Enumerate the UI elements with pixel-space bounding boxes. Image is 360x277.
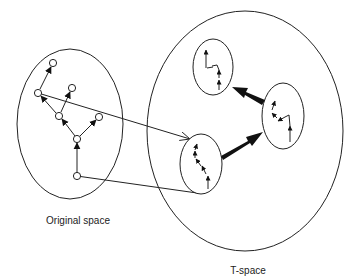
tree-nodes: [34, 59, 102, 179]
thick-arrow-icon: [232, 87, 265, 105]
edge-junction-middle: [62, 119, 75, 136]
original-space-ellipse: [17, 49, 123, 199]
node-bottom: [73, 172, 80, 179]
node-left: [34, 89, 41, 96]
cluster-bottom-left-ellipse: [180, 134, 222, 194]
cluster-top: [193, 39, 233, 95]
cluster-right-ellipse: [262, 83, 304, 149]
node-junction: [73, 135, 80, 142]
t-space-diagram: [0, 0, 360, 277]
cluster-bottom-left: [180, 134, 222, 194]
node-top: [49, 59, 56, 66]
t-space-label: T-space: [230, 265, 266, 276]
thick-arrow-right-to-top: [232, 87, 265, 105]
node-middle: [55, 112, 62, 119]
edge-middle-left: [41, 96, 56, 113]
node-upper-right: [68, 84, 75, 91]
cluster-right: [262, 83, 304, 149]
thick-arrow-icon: [221, 132, 263, 160]
original-space-group: [17, 49, 197, 199]
thick-arrow-bottom-left-to-right: [221, 132, 263, 160]
original-space-label: Original space: [46, 215, 110, 226]
node-right: [95, 113, 102, 120]
tree-edges: [40, 67, 96, 172]
edge-left-top: [40, 67, 51, 89]
t-space-group: [147, 11, 343, 251]
edge-junction-right: [80, 120, 96, 136]
t-space-ellipse: [147, 11, 343, 251]
